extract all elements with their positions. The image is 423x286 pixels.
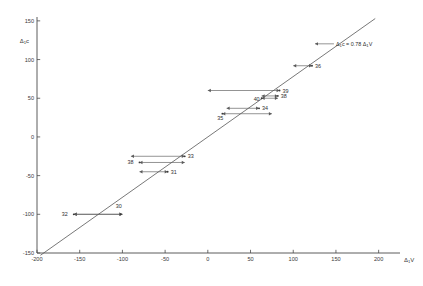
data-point-label: 35 xyxy=(217,115,223,121)
error-bar-arrow-left xyxy=(262,94,265,97)
data-point-marker xyxy=(73,213,75,215)
fit-line xyxy=(40,19,375,256)
data-point-label: 32 xyxy=(62,211,68,217)
y-tick-label: -150 xyxy=(23,250,34,256)
y-tick-label: 100 xyxy=(25,57,34,63)
error-bar-arrow-right xyxy=(269,112,272,115)
y-tick-label: -50 xyxy=(26,173,34,179)
y-axis-title: Δ1c xyxy=(20,38,29,46)
data-point-label: 36 xyxy=(315,63,321,69)
y-tick-label: 0 xyxy=(31,134,34,140)
data-point-marker xyxy=(279,90,281,92)
data-point-label: 38 xyxy=(127,159,133,165)
scatter-plot: -200-150-100-50050100150200-150-100-5005… xyxy=(0,0,423,286)
y-tick-label: 150 xyxy=(25,18,34,24)
data-point-label: 39 xyxy=(283,88,289,94)
data-point-label: 30 xyxy=(116,203,122,209)
error-bar-arrow-left xyxy=(139,170,142,173)
data-point-marker xyxy=(311,65,313,67)
equation-annotation: Δ1c = 0.78 Δ1V xyxy=(315,41,373,49)
x-tick-label: -200 xyxy=(31,256,42,262)
error-bar-arrow-right xyxy=(182,161,185,164)
axes: -200-150-100-50050100150200-150-100-5005… xyxy=(23,17,400,262)
data-point-label: 38 xyxy=(281,93,287,99)
x-axis-title: Δ1V xyxy=(404,257,414,265)
error-bar-arrow-left xyxy=(208,89,211,92)
x-tick-label: -100 xyxy=(117,256,128,262)
data-point-label: 33 xyxy=(188,153,194,159)
error-bar-arrow-left xyxy=(227,107,230,110)
error-bar-arrow-left xyxy=(293,64,296,67)
data-point-marker xyxy=(261,97,263,99)
data-point-marker xyxy=(167,171,169,173)
chart-page: -200-150-100-50050100150200-150-100-5005… xyxy=(0,0,423,286)
data-point-label: 31 xyxy=(171,169,177,175)
data-point-marker xyxy=(258,107,260,109)
data-point-marker xyxy=(120,213,122,215)
x-tick-label: -50 xyxy=(161,256,169,262)
y-tick-label: 50 xyxy=(28,95,34,101)
data-point-label: 40 xyxy=(254,96,260,102)
x-tick-label: 150 xyxy=(331,256,340,262)
regression-line xyxy=(40,19,375,256)
x-tick-label: -150 xyxy=(74,256,85,262)
point-labels: 3032313833353440383936 xyxy=(62,63,321,218)
data-markers xyxy=(73,65,313,215)
axis-titles: Δ1cΔ1V xyxy=(20,38,415,265)
annotation-arrow-head xyxy=(315,42,318,45)
annotation-equation-text: Δ1c = 0.78 Δ1V xyxy=(336,41,373,49)
data-point-marker xyxy=(277,95,279,97)
data-point-marker xyxy=(139,162,141,164)
error-bars xyxy=(74,64,312,216)
x-tick-label: 100 xyxy=(289,256,298,262)
x-tick-label: 0 xyxy=(206,256,209,262)
data-point-label: 34 xyxy=(262,105,268,111)
x-tick-label: 50 xyxy=(247,256,253,262)
error-bar-arrow-left xyxy=(131,155,134,158)
x-tick-label: 200 xyxy=(374,256,383,262)
data-point-marker xyxy=(184,155,186,157)
y-tick-label: -100 xyxy=(23,211,34,217)
